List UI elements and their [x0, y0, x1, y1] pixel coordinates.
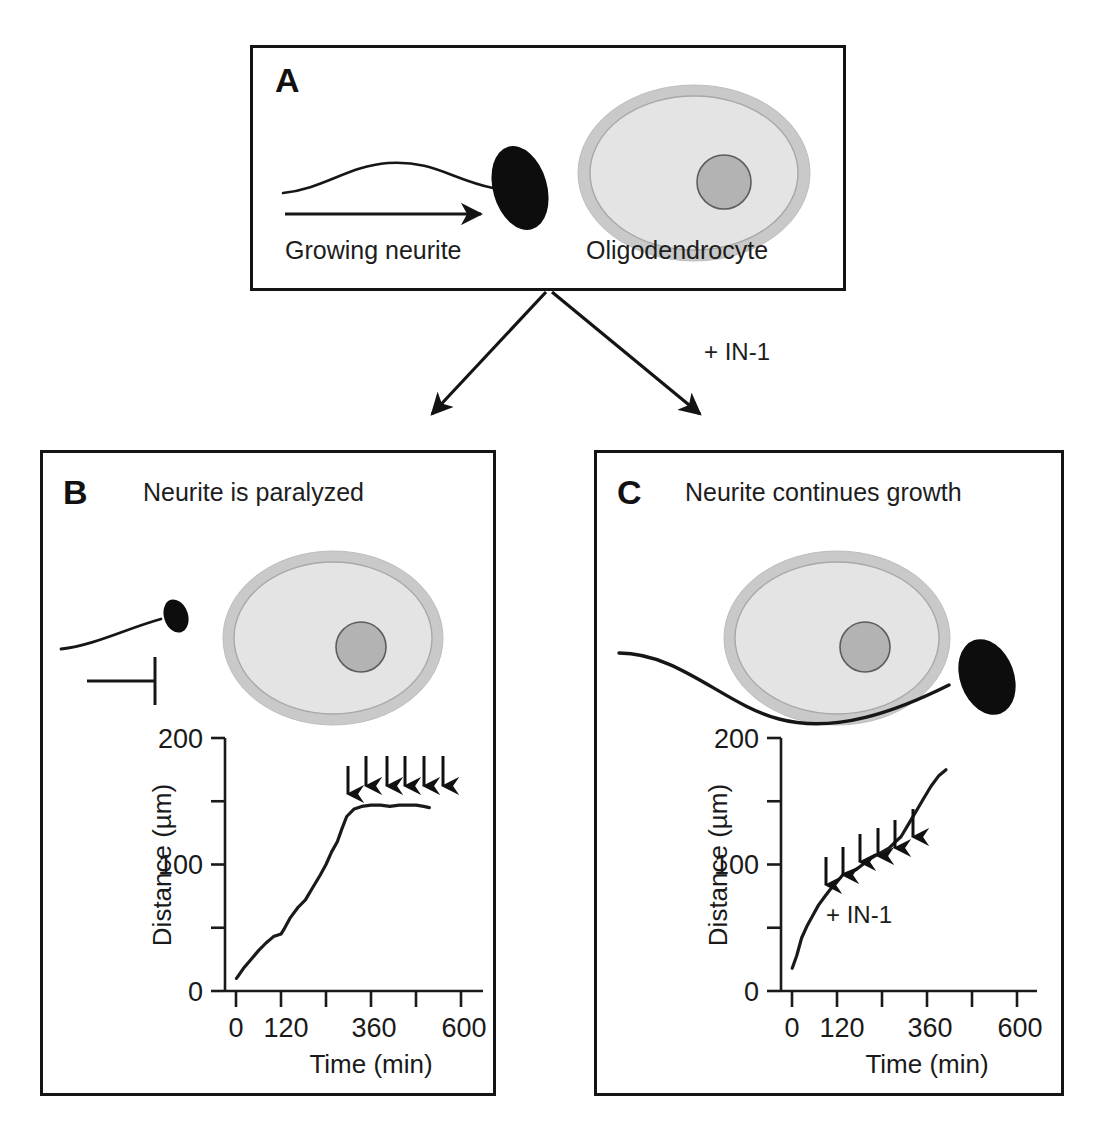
panel-a: A Growing neurite Oligodendrocyte: [250, 45, 846, 291]
panel-c-xtick-360: 360: [907, 1013, 952, 1043]
panel-c-x-ticks: [792, 991, 1017, 1007]
panel-b-xtick-0: 0: [228, 1013, 243, 1043]
panel-a-oligodendrocyte-caption: Oligodendrocyte: [586, 238, 768, 263]
panel-c-ytick-0: 0: [744, 977, 759, 1007]
oligodendrocyte-cytoplasm: [590, 96, 798, 250]
panel-b-xtick-120: 120: [263, 1013, 308, 1043]
panel-b-xtick-600: 600: [441, 1013, 486, 1043]
panel-b-event-arrows: [348, 756, 443, 794]
panel-c-y-ticks: [767, 738, 781, 991]
branch-arrow-left: [432, 292, 546, 414]
panel-c-ytick-200: 200: [714, 724, 759, 754]
growth-cone: [482, 139, 558, 237]
panel-c-xtick-120: 120: [819, 1013, 864, 1043]
branch-arrow-right: [552, 292, 700, 414]
panel-c-xtick-0: 0: [784, 1013, 799, 1043]
panel-b-xlabel: Time (min): [309, 1049, 432, 1079]
panel-c-data-curve: [792, 770, 946, 969]
panel-b-ytick-200: 200: [158, 724, 203, 754]
panel-b-y-ticks: [211, 738, 225, 991]
panel-b-data-curve: [237, 805, 430, 978]
panel-c-xlabel: Time (min): [865, 1049, 988, 1079]
figure-root: + IN-1 A Growing neurite Oligodendrocyte…: [0, 0, 1094, 1122]
panel-b: B Neurite is paralyzed: [40, 450, 496, 1096]
panel-b-chart: 200 100 0 0 120 360 600 Time (min) Dista…: [43, 453, 499, 1099]
panel-c-chart: 200 100 0 0 120 360 600 Time (min) Dista…: [597, 453, 1067, 1099]
panel-c-event-arrows: [826, 809, 913, 885]
panel-c-ylabel: Distance (µm): [703, 784, 733, 946]
panel-c-in1-note: + IN-1: [826, 901, 892, 928]
oligodendrocyte-nucleus: [697, 155, 751, 209]
panel-b-ytick-0: 0: [188, 977, 203, 1007]
treatment-label-in1: + IN-1: [704, 340, 770, 364]
panel-b-xtick-360: 360: [351, 1013, 396, 1043]
panel-b-x-ticks: [236, 991, 461, 1007]
panel-c: C Neurite continues growth: [594, 450, 1064, 1096]
panel-c-xtick-600: 600: [997, 1013, 1042, 1043]
panel-a-neurite-caption: Growing neurite: [285, 238, 461, 263]
neurite-shaft: [283, 163, 493, 193]
panel-b-ylabel: Distance (µm): [147, 784, 177, 946]
